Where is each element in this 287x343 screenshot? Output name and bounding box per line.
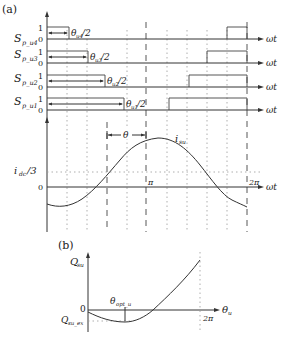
svg-text:π: π: [147, 178, 154, 187]
svg-text:/2: /2: [117, 76, 127, 86]
dashed-markers: [107, 22, 247, 232]
svg-text:su: su: [77, 261, 84, 268]
arrow-icon: [45, 11, 49, 17]
svg-text:S: S: [14, 95, 22, 108]
svg-text:2π: 2π: [248, 178, 260, 187]
svg-text:0: 0: [38, 83, 43, 92]
svg-text:0: 0: [38, 59, 43, 68]
svg-text:su: su: [179, 138, 186, 145]
figure: (a) S p_u4 1 0 ωt θ u4 /2 S: [0, 0, 287, 343]
svg-text:/2: /2: [81, 28, 91, 38]
svg-text:p_u2: p_u2: [22, 79, 38, 87]
svg-text:p_u3: p_u3: [22, 55, 38, 63]
panel-a-label: (a): [2, 3, 17, 16]
svg-text:u: u: [228, 309, 232, 316]
svg-text:ωt: ωt: [266, 34, 277, 44]
arrow-icon: [86, 252, 90, 258]
svg-text:0: 0: [38, 35, 43, 44]
svg-text:opt_u: opt_u: [116, 301, 132, 308]
arrow-icon: [45, 117, 49, 123]
reactive-plot: Q su 0 Q su_ex θ opt_u 2π θ u: [61, 252, 232, 332]
svg-text:S: S: [14, 32, 22, 45]
svg-text:0: 0: [38, 106, 43, 115]
svg-text:ωt: ωt: [266, 82, 277, 92]
svg-text:ωt: ωt: [266, 182, 277, 192]
svg-text:/2: /2: [100, 52, 110, 62]
svg-text:su_ex: su_ex: [68, 320, 84, 327]
svg-text:0: 0: [80, 304, 86, 314]
svg-text:/3: /3: [26, 165, 37, 176]
svg-text:1: 1: [38, 72, 43, 81]
svg-text:ωt: ωt: [266, 105, 277, 115]
svg-text:1: 1: [38, 95, 43, 104]
svg-text:2π: 2π: [202, 314, 214, 323]
svg-text:/2: /2: [136, 99, 146, 109]
svg-text:i: i: [14, 165, 17, 176]
svg-text:p_u4: p_u4: [22, 39, 38, 47]
svg-text:1: 1: [38, 48, 43, 57]
svg-text:1: 1: [38, 24, 43, 33]
svg-text:S: S: [14, 72, 22, 85]
svg-text:dc: dc: [19, 170, 27, 177]
svg-text:S: S: [14, 48, 22, 61]
svg-text:i: i: [175, 133, 178, 144]
qsu-curve: [88, 260, 200, 322]
svg-text:ωt: ωt: [266, 58, 277, 68]
svg-text:0: 0: [38, 183, 43, 192]
svg-text:p_u1: p_u1: [22, 102, 38, 110]
panel-b-label: (b): [58, 239, 74, 252]
isu-curve: [47, 138, 247, 207]
theta-label: θ: [123, 130, 129, 140]
arrow-icon: [214, 308, 220, 312]
